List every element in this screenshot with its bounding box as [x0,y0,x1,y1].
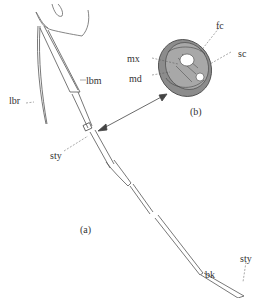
label-lbr: lbr [9,95,21,106]
panel-label-b: (b) [190,106,202,118]
label-sc: sc [238,48,247,59]
cross-section [149,31,221,106]
labium-sheath [40,26,80,92]
stylet-bundle [72,92,244,298]
label-md: md [129,73,142,84]
head-outline [36,4,89,36]
label-lbm: lbm [86,75,102,86]
link-arrow [98,94,167,131]
label-sty-top: sty [50,150,62,161]
diagram-canvas: lbr lbm sty sty bk mx md fc sc (a) (b) [0,0,266,298]
label-sty-tip: sty [240,253,252,264]
label-bk: bk [205,269,215,280]
panel-label-a: (a) [80,224,91,236]
label-mx: mx [127,53,140,64]
label-fc: fc [216,20,224,31]
